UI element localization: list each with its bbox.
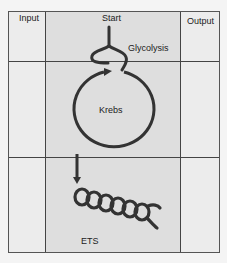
glycolysis-path-icon	[92, 27, 127, 70]
krebs-arrowhead-icon	[104, 68, 112, 76]
down-arrow-icon	[73, 154, 81, 184]
krebs-cycle-icon	[74, 72, 154, 147]
ets-chain-icon	[75, 189, 160, 228]
pathway-drawing	[0, 0, 227, 263]
